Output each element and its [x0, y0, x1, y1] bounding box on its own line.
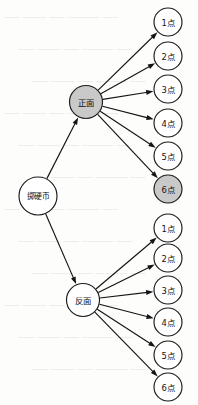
bleed-through-line: —— ——— —— ———— ——	[4, 205, 118, 214]
edge-arrowhead	[146, 90, 154, 95]
edge-arrowhead	[146, 115, 154, 120]
node-circle[interactable]	[154, 8, 182, 36]
node-circle-highlighted[interactable]	[154, 175, 182, 203]
tree-node-tails[interactable]: 反面	[67, 284, 100, 317]
node-circle[interactable]	[154, 142, 182, 170]
node-circle[interactable]	[154, 42, 182, 70]
node-layer: 掷硬币正面反面1点2点3点4点5点6点1点2点3点4点5点6点	[19, 8, 182, 401]
tree-node-heads[interactable]: 正面	[70, 86, 103, 119]
node-circle[interactable]	[154, 244, 182, 272]
node-circle[interactable]	[154, 109, 182, 137]
tree-edge	[95, 312, 154, 372]
tree-node-tails-4[interactable]: 4点	[154, 308, 182, 336]
tree-diagram-svg: —— ——— —— ———— ———— ——— —— ———— ———— ———…	[0, 0, 198, 405]
node-circle[interactable]	[67, 284, 100, 317]
bleed-through-line: —— ——— —— ———— ——	[32, 365, 146, 374]
edge-layer	[46, 32, 158, 376]
node-circle[interactable]	[154, 214, 182, 242]
edge-arrowhead	[71, 277, 76, 285]
tree-node-heads-2[interactable]: 2点	[154, 42, 182, 70]
node-circle-highlighted[interactable]	[70, 86, 103, 119]
node-circle[interactable]	[19, 177, 57, 215]
tree-edge	[96, 241, 152, 289]
node-circle[interactable]	[154, 75, 182, 103]
bleed-through-line: —— ——— —— ———— ——	[18, 237, 132, 246]
bleed-through-line: —— ——— —— ———— ——	[18, 45, 132, 54]
edge-arrowhead	[73, 117, 79, 125]
tree-edge	[46, 214, 74, 279]
tree-edge	[98, 37, 153, 91]
node-circle[interactable]	[154, 373, 182, 401]
edge-arrowhead	[148, 341, 155, 347]
bleed-through-line: —— ——— —— ———— ——	[4, 109, 118, 118]
bleed-through-line: —— ——— —— ———— ——	[4, 13, 118, 22]
tree-edge	[47, 123, 76, 179]
tree-node-root[interactable]: 掷硬币	[19, 177, 57, 215]
tree-node-heads-4[interactable]: 4点	[154, 109, 182, 137]
tree-node-tails-1[interactable]: 1点	[154, 214, 182, 242]
tree-edge	[102, 106, 147, 118]
edge-arrowhead	[146, 314, 154, 319]
edge-arrowhead	[146, 290, 153, 295]
tree-diagram-canvas: —— ——— —— ———— ———— ——— —— ———— ———— ———…	[0, 0, 198, 405]
tree-node-tails-6[interactable]: 6点	[154, 373, 182, 401]
node-circle[interactable]	[154, 341, 182, 369]
tree-edge	[98, 114, 154, 173]
tree-node-tails-3[interactable]: 3点	[154, 276, 182, 304]
edge-arrowhead	[148, 142, 155, 148]
tree-node-heads-5[interactable]: 5点	[154, 142, 182, 170]
tree-node-tails-2[interactable]: 2点	[154, 244, 182, 272]
bleed-through-line: —— ——— —— ———— ——	[18, 141, 132, 150]
tree-node-tails-5[interactable]: 5点	[154, 341, 182, 369]
tree-edge	[103, 92, 148, 99]
tree-edge	[100, 292, 147, 298]
tree-node-heads-6[interactable]: 6点	[154, 175, 182, 203]
tree-edge	[97, 309, 150, 343]
node-circle[interactable]	[154, 308, 182, 336]
edge-arrowhead	[148, 63, 156, 69]
node-circle[interactable]	[154, 276, 182, 304]
tree-node-heads-1[interactable]: 1点	[154, 8, 182, 36]
tree-node-heads-3[interactable]: 3点	[154, 75, 182, 103]
bleed-through-line: —— ——— —— ———— ——	[18, 333, 132, 342]
edge-arrowhead	[147, 265, 155, 270]
bleed-through-line: —— ——— —— ———— ——	[4, 301, 118, 310]
